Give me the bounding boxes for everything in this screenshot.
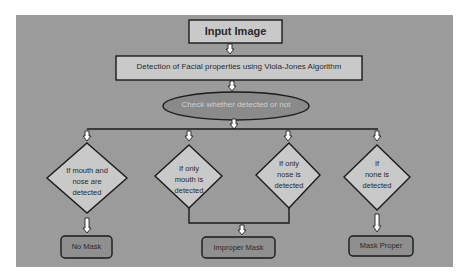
merge-line [189, 208, 289, 223]
decision3-label: If only nose is detected [259, 158, 319, 191]
decision4-line1: If [347, 158, 407, 169]
decision1-line2: nose are [52, 176, 122, 187]
detection-label: Detection of Facial properties using Vio… [116, 62, 362, 71]
input-image-label: Input Image [189, 25, 282, 37]
decision2-label: If only mouth is detected [159, 163, 219, 196]
check-label: Check whether detected or not [163, 100, 309, 109]
decision1-line3: detected [52, 187, 122, 198]
decision2-line3: detected [159, 185, 219, 196]
decision4-label: If none is detected [347, 158, 407, 191]
decision4-line3: detected [347, 180, 407, 191]
no-mask-label: No Mask [61, 242, 112, 251]
decision2-line1: If only [159, 163, 219, 174]
decision3-line3: detected [259, 180, 319, 191]
flowchart-shapes [0, 0, 470, 280]
decision1-label: If mouth and nose are detected [52, 165, 122, 198]
decision4-line2: none is [347, 169, 407, 180]
mask-proper-label: Mask Proper [349, 241, 413, 250]
decision3-line2: nose is [259, 169, 319, 180]
improper-mask-label: Improper Mask [202, 243, 275, 252]
decision3-line1: If only [259, 158, 319, 169]
decision1-line1: If mouth and [52, 165, 122, 176]
decision2-line2: mouth is [159, 174, 219, 185]
